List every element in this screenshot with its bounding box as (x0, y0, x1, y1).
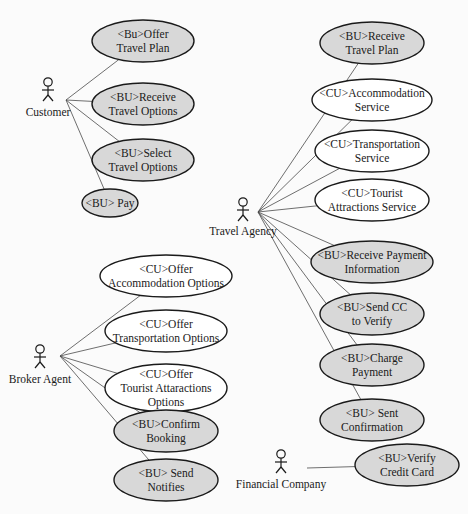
use-case-label-line: <BU>Select (114, 147, 172, 159)
use-case-label-line: <CU>Tourist (341, 187, 403, 199)
association-customer-receive-travel-options (66, 100, 92, 101)
use-case-ellipse (92, 83, 194, 125)
use-case-ellipse (105, 310, 227, 352)
use-case-label-line: Travel Plan (117, 42, 170, 54)
use-case-ellipse (320, 399, 424, 441)
use-case-label-line: Transportation Options (113, 332, 220, 345)
use-case-label-line: Confirmation (341, 421, 403, 433)
use-case-label-line: Accommodation Options (108, 277, 224, 290)
actor-label: Broker Agent (9, 373, 72, 386)
actor-label: Financial Company (236, 478, 327, 491)
use-case-offer-tourist-attaractions-options[interactable]: <CU>OfferTourist AttaractionsOptions (105, 364, 227, 412)
use-case-label-line: Credit Card (380, 466, 434, 478)
use-case-label-line: <BU>Receive Payment (317, 249, 427, 262)
stick-figure-icon (42, 78, 54, 101)
actor-customer[interactable]: Customer (26, 78, 71, 118)
association-financial-company-verify-credit-card (307, 467, 355, 468)
use-case-label-line: to Verify (352, 315, 393, 328)
use-case-verify-credit-card[interactable]: <BU>VerifyCredit Card (355, 444, 459, 486)
use-case-label-line: Travel Options (109, 161, 178, 174)
use-case-ellipse (92, 139, 194, 181)
use-case-offer-travel-plan[interactable]: <Bu>OfferTravel Plan (92, 20, 194, 62)
use-case-label-line: Tourist Attaractions (121, 382, 212, 394)
use-case-label-line: <BU>Receive (110, 91, 176, 103)
use-case-accommodation-service[interactable]: <CU>AccommodationService (312, 79, 432, 121)
use-case-ellipse (320, 22, 424, 64)
use-case-label-line: <Bu>Offer (117, 28, 168, 40)
use-case-label-line: <BU>Receive (339, 30, 405, 42)
use-case-label-line: <CU>Offer (139, 368, 193, 380)
use-case-receive-travel-plan[interactable]: <BU>ReceiveTravel Plan (320, 22, 424, 64)
use-case-label-line: Travel Plan (346, 44, 399, 56)
actor-broker-agent[interactable]: Broker Agent (9, 345, 72, 386)
use-case-ellipse (320, 344, 424, 386)
use-case-charge-payment[interactable]: <BU>ChargePayment (320, 344, 424, 386)
use-case-pay[interactable]: <BU> Pay (82, 189, 138, 217)
use-case-label-line: <CU>Transportation (324, 138, 420, 151)
use-case-ellipse (311, 241, 433, 283)
use-case-ellipse (315, 179, 429, 221)
actor-financial-company[interactable]: Financial Company (236, 450, 327, 491)
use-case-label-line: <BU>Confirm (132, 418, 200, 430)
use-case-label-line: Booking (146, 432, 186, 445)
use-case-receive-travel-options[interactable]: <BU>ReceiveTravel Options (92, 83, 194, 125)
use-case-ellipse (312, 79, 432, 121)
actor-label: Customer (26, 106, 71, 118)
use-case-label-line: <CU>Offer (139, 263, 193, 275)
association-broker-agent-offer-tourist-attaractions-options (60, 356, 118, 373)
stick-figure-icon (237, 198, 249, 221)
use-case-select-travel-options[interactable]: <BU>SelectTravel Options (92, 139, 194, 181)
use-case-label-line: <BU> Sent (346, 407, 399, 419)
stick-figure-icon (34, 345, 46, 368)
use-case-label-line: Options (148, 396, 185, 409)
use-case-diagram: CustomerTravel AgencyBroker AgentFinanci… (0, 0, 468, 514)
use-case-offer-accommodation-options[interactable]: <CU>OfferAccommodation Options (100, 255, 232, 297)
use-case-offer-transportation-options[interactable]: <CU>OfferTransportation Options (105, 310, 227, 352)
use-case-receive-payment-information[interactable]: <BU>Receive PaymentInformation (311, 241, 433, 283)
use-case-sent-confirmation[interactable]: <BU> SentConfirmation (320, 399, 424, 441)
use-case-label-line: <CU>Offer (139, 318, 193, 330)
actor-label: Travel Agency (209, 225, 277, 238)
use-case-label-line: Travel Options (109, 105, 178, 118)
use-case-label-line: <BU>Send CC (337, 301, 407, 313)
use-case-ellipse (100, 255, 232, 297)
association-travel-agency-tourist-attractions-service (258, 206, 317, 212)
use-case-confirm-booking[interactable]: <BU>ConfirmBooking (114, 410, 218, 452)
use-case-label-line: Attractions Service (328, 201, 416, 213)
use-case-label-line: Payment (352, 366, 393, 379)
use-case-label-line: Service (355, 152, 389, 164)
use-case-label-line: <BU> Send (139, 467, 194, 479)
use-case-send-cc-to-verify[interactable]: <BU>Send CCto Verify (320, 293, 424, 335)
use-cases: <Bu>OfferTravel Plan<BU>ReceiveTravel Op… (82, 20, 459, 501)
use-case-label-line: <CU>Accommodation (319, 87, 425, 99)
use-case-label-line: <BU>Verify (378, 452, 436, 465)
use-case-transportation-service[interactable]: <CU>TransportationService (315, 130, 429, 172)
use-case-ellipse (320, 293, 424, 335)
use-case-label-line: Service (355, 101, 389, 113)
use-case-ellipse (92, 20, 194, 62)
use-case-tourist-attractions-service[interactable]: <CU>TouristAttractions Service (315, 179, 429, 221)
use-case-label-line: Notifies (147, 481, 185, 493)
use-case-ellipse (355, 444, 459, 486)
use-case-label-line: Information (345, 263, 400, 275)
use-case-label-line: <BU>Charge (341, 352, 403, 365)
use-case-ellipse (114, 459, 218, 501)
use-case-ellipse (315, 130, 429, 172)
stick-figure-icon (275, 450, 287, 473)
use-case-ellipse (114, 410, 218, 452)
use-case-label-line: <BU> Pay (85, 197, 134, 210)
use-case-send-notifies[interactable]: <BU> SendNotifies (114, 459, 218, 501)
